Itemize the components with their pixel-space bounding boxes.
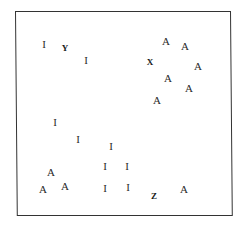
letter-i: I [109,141,113,152]
letter-a: A [180,184,188,195]
letter-y-target: Y [62,44,69,53]
letter-i: I [76,134,80,145]
letter-i: I [125,161,129,172]
letter-a: A [185,83,193,94]
figure-frame [15,11,233,216]
letter-a: A [39,184,47,195]
letter-i: I [42,39,46,50]
letter-a: A [47,167,55,178]
letter-i: I [53,117,57,128]
letter-i: I [103,183,107,194]
letter-a: A [153,95,161,106]
letter-a: A [61,181,69,192]
letter-a: A [164,73,172,84]
letter-a: A [194,61,202,72]
letter-a: A [162,36,170,47]
letter-z-target: Z [151,192,157,201]
letter-i: I [126,182,130,193]
letter-a: A [181,41,189,52]
letter-i: I [103,161,107,172]
letter-x-target: X [147,58,154,67]
letter-i: I [84,55,88,66]
